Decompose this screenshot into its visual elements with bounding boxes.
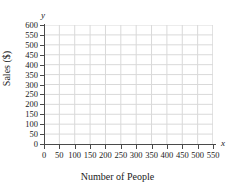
y-axis-tick — [40, 104, 44, 105]
y-axis-tick-label: 400 — [25, 61, 38, 70]
y-axis-tick — [40, 25, 44, 26]
x-axis-tick-label: 500 — [191, 151, 204, 160]
x-axis-line — [44, 144, 216, 145]
y-axis-tick-label: 500 — [25, 41, 38, 50]
x-axis-tick-label: 50 — [55, 151, 64, 160]
y-axis-variable-marker: y — [41, 11, 45, 20]
y-axis-tick-label: 0 — [34, 140, 38, 149]
x-axis-tick-label: 450 — [176, 151, 189, 160]
y-axis-tick-label: 350 — [25, 71, 38, 80]
y-axis-tick — [40, 85, 44, 86]
y-axis-tick-label: 600 — [25, 21, 38, 30]
x-axis-tick-label: 0 — [42, 151, 46, 160]
y-axis-tick-label: 200 — [25, 100, 38, 109]
y-axis-tick-label: 300 — [25, 81, 38, 90]
x-axis-tick-label: 550 — [207, 151, 220, 160]
x-axis-tick — [213, 145, 214, 149]
x-axis-tick-label: 250 — [114, 151, 127, 160]
y-axis-line — [44, 24, 45, 145]
x-axis-tick — [182, 145, 183, 149]
y-axis-tick — [40, 94, 44, 95]
x-axis-tick — [75, 145, 76, 149]
x-axis-tick — [121, 145, 122, 149]
y-axis-tick — [40, 134, 44, 135]
y-axis-tick-label: 50 — [30, 130, 39, 139]
y-axis-tick — [40, 65, 44, 66]
y-axis-title: Sales ($) — [1, 34, 12, 104]
y-axis-tick — [40, 75, 44, 76]
y-axis-tick-label: 150 — [25, 110, 38, 119]
y-axis-tick-label: 450 — [25, 51, 38, 60]
x-axis-title: Number of People — [0, 171, 235, 182]
plot-area — [44, 25, 213, 144]
y-axis-tick-label: 100 — [25, 120, 38, 129]
x-axis-tick-label: 100 — [68, 151, 81, 160]
y-axis-tick — [40, 45, 44, 46]
x-axis-tick — [136, 145, 137, 149]
x-axis-tick — [152, 145, 153, 149]
x-axis-tick — [198, 145, 199, 149]
y-axis-tick-label: 550 — [25, 31, 38, 40]
y-axis-tick — [40, 55, 44, 56]
y-axis-tick — [40, 114, 44, 115]
x-axis-tick-label: 300 — [130, 151, 143, 160]
x-axis-tick-label: 150 — [84, 151, 97, 160]
gridlines — [44, 25, 213, 144]
x-axis-tick — [105, 145, 106, 149]
y-axis-tick — [40, 35, 44, 36]
x-axis-tick-label: 350 — [145, 151, 158, 160]
x-axis-tick — [90, 145, 91, 149]
x-axis-tick — [167, 145, 168, 149]
x-axis-tick-label: 200 — [99, 151, 112, 160]
empty-coordinate-grid-chart: 050100150200250300350400450500550600 050… — [0, 0, 235, 193]
x-axis-tick — [44, 145, 45, 149]
y-axis-tick — [40, 124, 44, 125]
x-axis-variable-marker: x — [221, 139, 225, 148]
x-axis-tick — [59, 145, 60, 149]
y-axis-tick-label: 250 — [25, 90, 38, 99]
x-axis-tick-label: 400 — [161, 151, 174, 160]
